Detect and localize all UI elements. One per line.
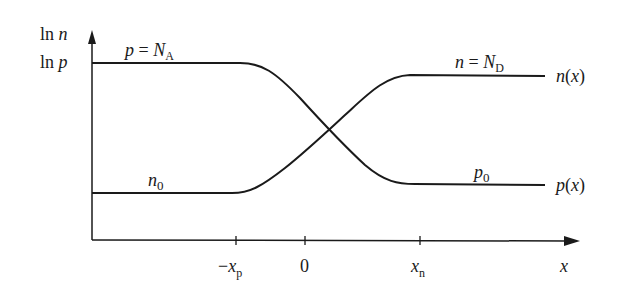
tick-label-xn: xn	[410, 256, 425, 280]
y-axis-label-ln-p: ln p	[40, 52, 68, 72]
label-n-equals-ND: n = ND	[455, 52, 504, 75]
label-p0: p0	[472, 162, 490, 185]
label-p-of-x: p(x)	[554, 175, 585, 196]
label-n0: n0	[148, 170, 164, 193]
pn-junction-diagram: ln n ln p p = NA n = ND n0 p0 n(x) p(x) …	[0, 0, 626, 296]
label-n-of-x: n(x)	[556, 66, 585, 87]
y-axis-arrow-icon	[88, 30, 96, 44]
x-axis-arrow-icon	[564, 236, 580, 246]
tick-label-zero: 0	[300, 256, 309, 276]
label-p-equals-NA: p = NA	[123, 40, 174, 63]
x-axis-label: x	[559, 256, 568, 276]
tick-label-neg-xp: −xp	[218, 256, 242, 280]
x-axis	[92, 240, 568, 241]
y-axis-label-ln-n: ln n	[40, 24, 68, 44]
